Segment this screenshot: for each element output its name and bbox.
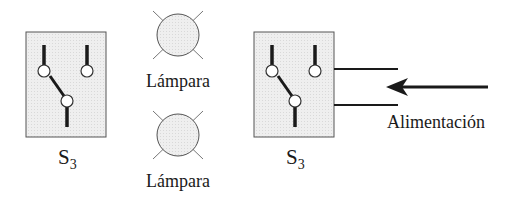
switch-label: S3 (58, 145, 77, 172)
lamp-icon (157, 14, 199, 56)
supply-arrow (386, 78, 488, 96)
supply-label: Alimentación (387, 112, 485, 132)
wiring-diagram: S3 Lámpara Lámpara S3 Alimentación (0, 0, 521, 200)
switch-1: S3 (26, 32, 106, 172)
lamp-label: Lámpara (146, 171, 210, 191)
switch-2: S3 (254, 32, 334, 172)
terminal-contact (81, 65, 93, 77)
lamp-label: Lámpara (146, 71, 210, 91)
lamp-2: Lámpara (146, 111, 210, 191)
terminal-contact (38, 65, 50, 77)
terminal-contact (266, 65, 278, 77)
lamp-icon (157, 114, 199, 156)
switch-label: S3 (286, 145, 305, 172)
common-contact (289, 95, 301, 107)
common-contact (61, 95, 73, 107)
lamp-1: Lámpara (146, 11, 210, 91)
terminal-contact (309, 65, 321, 77)
